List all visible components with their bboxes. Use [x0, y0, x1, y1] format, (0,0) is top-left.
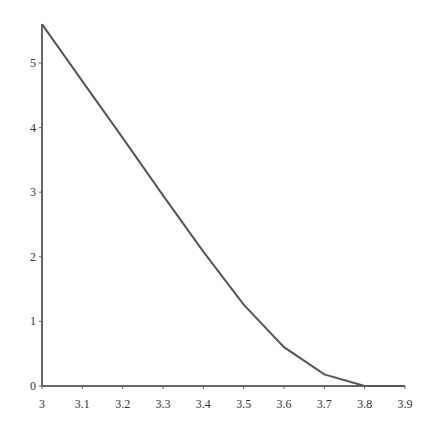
y-tick-label: 5 — [30, 56, 36, 70]
y-tick-label: 4 — [30, 121, 36, 135]
axes — [42, 24, 405, 386]
x-tick-label: 3.3 — [156, 397, 171, 411]
x-tick-label: 3.8 — [357, 397, 372, 411]
y-tick-label: 2 — [30, 250, 36, 264]
x-tick-label: 3 — [39, 397, 45, 411]
x-tick-label: 3.9 — [398, 397, 413, 411]
data-line — [42, 24, 405, 386]
x-tick-label: 3.7 — [317, 397, 332, 411]
y-axis-ticks: 012345 — [30, 56, 42, 393]
x-tick-label: 3.5 — [236, 397, 251, 411]
y-tick-label: 1 — [30, 314, 36, 328]
x-tick-label: 3.1 — [75, 397, 90, 411]
x-tick-label: 3.6 — [277, 397, 292, 411]
y-tick-label: 3 — [30, 185, 36, 199]
x-axis-ticks: 33.13.23.33.43.53.63.73.83.9 — [39, 386, 413, 411]
x-tick-label: 3.4 — [196, 397, 211, 411]
line-chart: 012345 33.13.23.33.43.53.63.73.83.9 — [0, 0, 442, 437]
x-tick-label: 3.2 — [115, 397, 130, 411]
y-tick-label: 0 — [30, 379, 36, 393]
